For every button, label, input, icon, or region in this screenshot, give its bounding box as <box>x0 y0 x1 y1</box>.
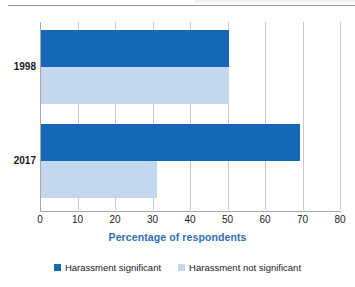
x-tick-label-40: 40 <box>184 214 195 226</box>
bar-group-2017 <box>41 124 341 198</box>
legend-swatch-icon-1 <box>54 264 61 271</box>
x-tick-label-0: 0 <box>37 214 43 226</box>
x-tick-label-30: 30 <box>147 214 158 226</box>
x-tick-label-80: 80 <box>334 214 345 226</box>
header-divider-rule <box>8 5 355 6</box>
clipped-header-text <box>195 0 355 4</box>
x-tick-label-10: 10 <box>72 214 83 226</box>
bar-1998-series-2[interactable] <box>41 67 229 104</box>
chart-legend: Harassment significantHarassment not sig… <box>0 262 355 273</box>
legend-label-1: Harassment significant <box>65 262 161 273</box>
legend-label-2: Harassment not significant <box>189 262 301 273</box>
x-tick-label-70: 70 <box>297 214 308 226</box>
legend-swatch-icon-2 <box>178 264 185 271</box>
plot-area <box>40 22 340 210</box>
x-axis-title: Percentage of respondents <box>0 231 355 243</box>
bar-1998-series-1[interactable] <box>41 30 229 67</box>
x-tick-label-20: 20 <box>109 214 120 226</box>
x-tick-label-50: 50 <box>222 214 233 226</box>
y-category-label-2017: 2017 <box>4 155 36 167</box>
legend-item-1[interactable]: Harassment significant <box>54 262 161 273</box>
bar-2017-series-1[interactable] <box>41 124 300 161</box>
y-category-label-1998: 1998 <box>4 61 36 73</box>
bar-2017-series-2[interactable] <box>41 161 157 198</box>
legend-item-2[interactable]: Harassment not significant <box>178 262 301 273</box>
bar-chart-figure: 01020304050607080 19982017 Percentage of… <box>0 0 355 287</box>
x-axis-line <box>40 211 341 212</box>
x-tick-label-60: 60 <box>259 214 270 226</box>
bar-group-1998 <box>41 30 341 104</box>
